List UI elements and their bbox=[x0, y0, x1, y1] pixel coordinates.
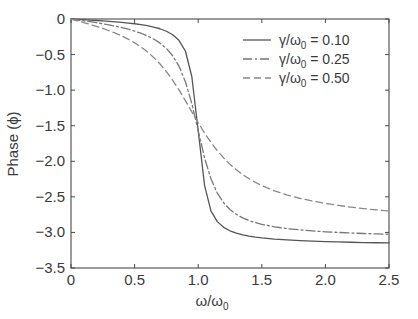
y-tick-label: −3.5 bbox=[35, 259, 65, 276]
y-axis-title-main: Phase bbox=[4, 134, 21, 177]
legend-symbol-1: γ/ω bbox=[279, 51, 301, 67]
y-tick-label: −1.5 bbox=[35, 117, 65, 134]
y-tick-label: −2.5 bbox=[35, 188, 65, 205]
x-tick-label: 2.0 bbox=[315, 271, 336, 288]
y-axis-title: Phase (ϕ) bbox=[4, 111, 21, 176]
legend-value-2: 0.50 bbox=[322, 70, 349, 86]
y-tick-label: −2.0 bbox=[35, 152, 65, 169]
x-tick-label: 1.5 bbox=[251, 271, 272, 288]
x-axis-title-subscript: 0 bbox=[223, 301, 229, 312]
x-tick-label: 1.0 bbox=[188, 271, 209, 288]
legend-equals-0: = bbox=[306, 32, 322, 48]
legend-value-1: 0.25 bbox=[322, 51, 349, 67]
y-tick-label: 0 bbox=[57, 10, 65, 27]
legend-equals-1: = bbox=[306, 51, 322, 67]
y-tick-label: −1.0 bbox=[35, 81, 65, 98]
legend-equals-2: = bbox=[306, 70, 322, 86]
x-tick-label: 0.5 bbox=[124, 271, 145, 288]
x-tick-label: 2.5 bbox=[379, 271, 400, 288]
y-tick-label: −3.0 bbox=[35, 223, 65, 240]
y-tick-label: −0.5 bbox=[35, 46, 65, 63]
y-axis-title-paren-close: ) bbox=[4, 111, 21, 116]
legend-symbol-0: γ/ω bbox=[279, 32, 301, 48]
svg-text:Phase (ϕ): Phase (ϕ) bbox=[4, 111, 21, 176]
legend-value-0: 0.10 bbox=[322, 32, 349, 48]
legend-symbol-2: γ/ω bbox=[279, 70, 301, 86]
phase-response-chart: 00.51.01.52.02.5 0−0.5−1.0−1.5−2.0−2.5−3… bbox=[0, 0, 418, 319]
chart-svg: 00.51.01.52.02.5 0−0.5−1.0−1.5−2.0−2.5−3… bbox=[0, 0, 418, 319]
y-axis-title-symbol: ϕ bbox=[4, 116, 21, 124]
x-axis-title-main: ω/ω bbox=[195, 292, 223, 309]
x-tick-label: 0 bbox=[67, 271, 75, 288]
